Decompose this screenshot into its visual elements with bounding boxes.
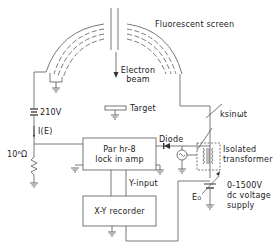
recorder-label: X-Y recorder: [83, 207, 156, 216]
circuit-diagram: Fluorescent screen Electron beam Target …: [0, 0, 276, 249]
modulation-label: ksinωt: [220, 110, 247, 119]
transformer-label-2: transformer: [223, 155, 273, 164]
e0-label: EO: [192, 193, 201, 203]
electron-beam-label-2: beam: [120, 75, 156, 84]
y-input-label: Y-input: [129, 179, 158, 188]
supply-label-1: 0-1500V: [227, 181, 262, 190]
supply-label-2: dc voltage: [227, 191, 271, 200]
voltage-210-label: 210V: [40, 108, 62, 117]
beam-arrow-head: [114, 72, 119, 78]
transformer-label-1: Isolated: [223, 145, 256, 154]
supply-label-3: supply: [227, 201, 255, 210]
electron-beam-label-1: Electron: [120, 66, 156, 75]
target-label: Target: [130, 104, 156, 113]
variable-arrow-head: [216, 171, 220, 176]
lockin-label-1: Par hr-8: [83, 145, 156, 154]
current-label: I(E): [38, 127, 52, 136]
fluorescent-screen-label: Fluorescent screen: [155, 20, 234, 29]
diode-label: Diode: [159, 135, 183, 144]
lockin-label-2: lock in amp: [83, 155, 156, 164]
resistor-label: 10⁶Ω: [7, 150, 27, 159]
